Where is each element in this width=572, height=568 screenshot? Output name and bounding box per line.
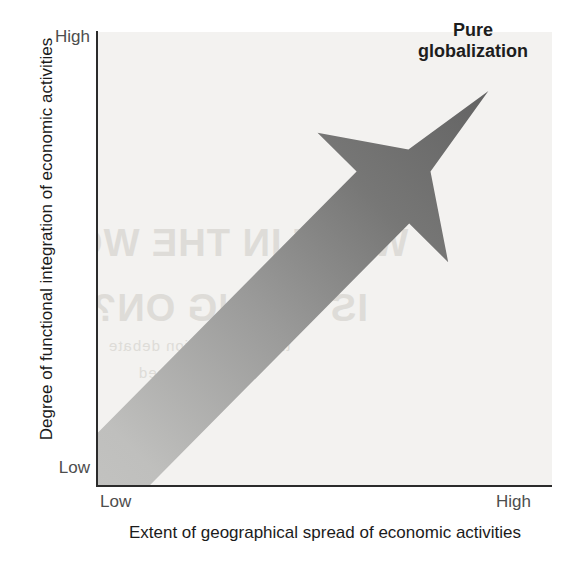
globalization-diagram: WHAT IN THE WO IS GOING ON? the globaliz… [0, 0, 572, 568]
y-axis-tick-low: Low [59, 458, 90, 478]
y-axis-line [96, 31, 98, 487]
arrow-graphic [98, 32, 552, 485]
x-axis-title: Extent of geographical spread of economi… [98, 523, 552, 543]
x-axis-tick-high: High [496, 492, 531, 512]
x-axis-tick-low: Low [100, 492, 131, 512]
annotation-line-1: Pure [380, 20, 566, 41]
plot-area: WHAT IN THE WO IS GOING ON? the globaliz… [98, 32, 552, 485]
y-axis-tick-high: High [55, 27, 90, 47]
annotation-line-2: globalization [380, 41, 566, 62]
annotation-pure-globalization: Pure globalization [380, 20, 566, 62]
x-axis-line [96, 485, 552, 487]
pure-globalization-arrow [98, 91, 488, 485]
y-axis-title: Degree of functional integration of econ… [37, 29, 57, 449]
